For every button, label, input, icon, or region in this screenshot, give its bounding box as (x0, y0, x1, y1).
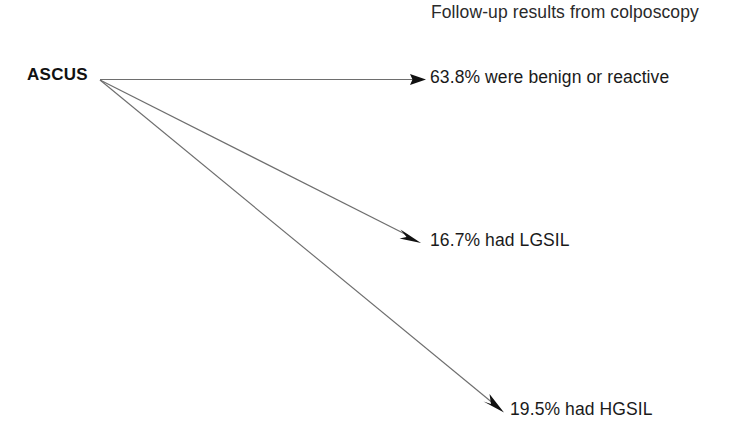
source-node-ascus: ASCUS (27, 66, 88, 83)
arrowhead-hgsil (484, 394, 505, 413)
outcome-label-lgsil: 16.7% had LGSIL (430, 232, 570, 250)
outcome-label-benign: 63.8% were benign or reactive (430, 69, 669, 87)
arrow-line-lgsil (100, 80, 409, 236)
page-title: Follow-up results from colposcopy (431, 4, 699, 22)
outcome-label-hgsil: 19.5% had HGSIL (510, 401, 653, 419)
arrowhead-lgsil (400, 230, 422, 244)
diagram-canvas: Follow-up results from colposcopy ASCUS … (0, 0, 746, 441)
